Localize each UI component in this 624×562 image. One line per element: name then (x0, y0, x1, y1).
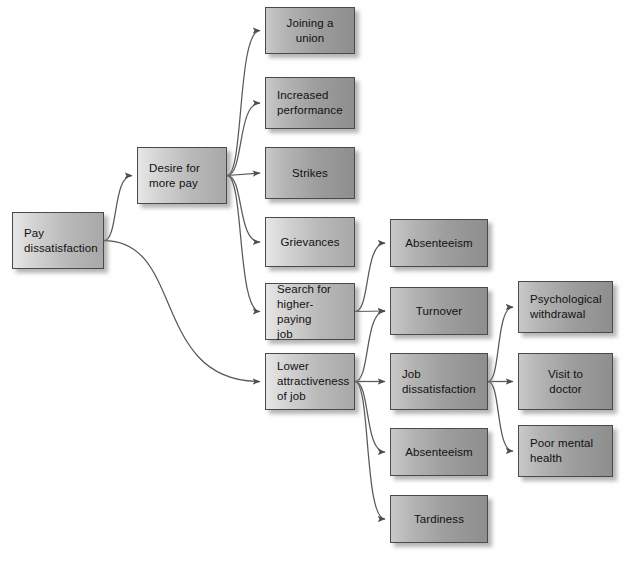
node-grievances: Grievances (265, 217, 355, 267)
node-label: Absenteeism (405, 445, 473, 460)
node-joining_union: Joining a union (265, 7, 355, 54)
node-visit_to_doctor: Visit to doctor (518, 353, 613, 410)
node-poor_mental_health: Poor mental health (518, 425, 613, 477)
node-psychological_withdrawal: Psychological withdrawal (518, 281, 613, 333)
connector-pay_dissatisfaction-to-lower_attractiveness_of_job (104, 241, 260, 382)
node-label: Search for higher-paying job (277, 282, 343, 342)
connector-search_higher_paying_job-to-turnover (355, 311, 385, 312)
node-label: Psychological withdrawal (530, 292, 602, 322)
connector-search_higher_paying_job-to-absenteeism_1 (355, 243, 385, 312)
node-absenteeism_1: Absenteeism (390, 219, 488, 267)
connector-job_dissatisfaction-to-psychological_withdrawal (488, 307, 513, 382)
connector-lower_attractiveness_of_job-to-absenteeism_2 (355, 382, 385, 453)
node-label: Absenteeism (405, 236, 473, 251)
connector-desire_more_pay-to-increased_performance (227, 103, 260, 176)
node-label: Poor mental health (530, 436, 593, 466)
node-strikes: Strikes (265, 147, 355, 199)
node-desire_more_pay: Desire for more pay (137, 147, 227, 204)
connector-job_dissatisfaction-to-poor_mental_health (488, 382, 513, 452)
node-label: Joining a union (277, 16, 343, 46)
connector-desire_more_pay-to-search_higher_paying_job (227, 176, 260, 312)
node-label: Lower attractiveness of job (277, 359, 349, 404)
node-label: Pay dissatisfaction (24, 226, 98, 256)
node-label: Turnover (416, 304, 462, 319)
node-tardiness: Tardiness (390, 495, 488, 543)
node-search_higher_paying_job: Search for higher-paying job (265, 283, 355, 340)
node-label: Tardiness (414, 512, 464, 527)
node-lower_attractiveness_of_job: Lower attractiveness of job (265, 353, 355, 410)
connector-lower_attractiveness_of_job-to-turnover (355, 311, 385, 382)
connector-pay_dissatisfaction-to-desire_more_pay (104, 176, 132, 241)
connector-desire_more_pay-to-joining_union (227, 31, 260, 176)
node-absenteeism_2: Absenteeism (390, 428, 488, 476)
node-label: Desire for more pay (149, 161, 200, 191)
node-label: Visit to doctor (548, 367, 583, 397)
node-increased_performance: Increased performance (265, 77, 355, 129)
node-label: Grievances (280, 235, 339, 250)
node-label: Increased performance (277, 88, 343, 118)
node-turnover: Turnover (390, 287, 488, 335)
connector-desire_more_pay-to-grievances (227, 176, 260, 243)
node-pay_dissatisfaction: Pay dissatisfaction (12, 212, 104, 269)
node-label: Strikes (292, 166, 328, 181)
node-job_dissatisfaction: Job dissatisfaction (390, 353, 488, 410)
node-label: Job dissatisfaction (402, 367, 476, 397)
flowchart-canvas: Pay dissatisfactionDesire for more payJo… (0, 0, 624, 562)
